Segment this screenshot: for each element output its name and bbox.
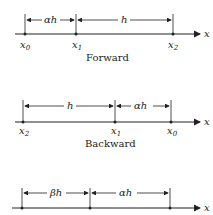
forward-diagram: x αh h x0 x1 x2 Forward: [15, 14, 210, 63]
svg-text:h: h: [67, 100, 73, 111]
svg-text:x: x: [204, 116, 210, 127]
svg-text:x1: x1: [72, 39, 82, 52]
finite-difference-grid-diagrams: x αh h x0 x1 x2 Forward x h αh x2 x1 x0 …: [0, 0, 213, 215]
svg-text:x0: x0: [167, 125, 178, 138]
interval-label: αh: [44, 14, 57, 25]
svg-text:x1: x1: [111, 125, 121, 138]
axis-label: x: [204, 28, 210, 39]
svg-text:x0: x0: [20, 39, 31, 52]
svg-text:x2: x2: [19, 125, 30, 138]
interval-label: h: [121, 14, 127, 25]
caption: Forward: [86, 52, 129, 63]
svg-text:x2: x2: [168, 39, 179, 52]
svg-text:βh: βh: [49, 187, 62, 198]
svg-text:αh: αh: [119, 187, 132, 198]
nonuniform-diagram: x βh αh: [12, 187, 210, 213]
svg-text:x: x: [204, 202, 210, 213]
svg-text:αh: αh: [134, 100, 147, 111]
caption: Backward: [85, 138, 136, 149]
backward-diagram: x h αh x2 x1 x0 Backward: [15, 100, 210, 149]
